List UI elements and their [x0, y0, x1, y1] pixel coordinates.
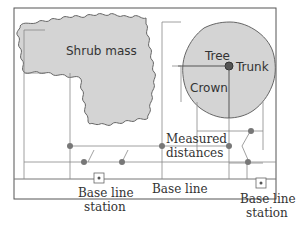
- station-left-label-2: station: [84, 200, 126, 214]
- trunk-label: Trunk: [235, 60, 269, 74]
- measured-label-2: distances: [166, 146, 223, 160]
- tree-label: Tree: [204, 49, 230, 63]
- crown-label: Crown: [190, 81, 228, 95]
- site-measurement-diagram: Shrub mass Tree Trunk Crown: [0, 0, 296, 230]
- station-right-label-1: Base line: [240, 192, 296, 206]
- station-left-label-1: Base line: [78, 186, 134, 200]
- baseline-label: Base line: [152, 182, 208, 196]
- station-right-label-2: station: [246, 206, 288, 220]
- shrub-label: Shrub mass: [66, 44, 137, 58]
- measured-label-1: Measured: [166, 132, 227, 146]
